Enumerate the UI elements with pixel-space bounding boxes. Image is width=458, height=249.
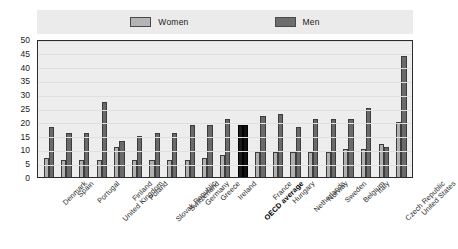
bar-men: [137, 136, 142, 177]
y-axis-tick-label: 25: [21, 104, 30, 114]
y-axis-tick-label: 0: [25, 173, 30, 183]
bar-men: [401, 56, 406, 177]
plot-frame: [37, 40, 413, 178]
x-axis: DenmarkSpainPortugalUnited KingdomFinlan…: [37, 179, 413, 249]
bar-men: [155, 133, 160, 177]
y-axis-tick-label: 30: [21, 90, 30, 100]
gridline: [38, 96, 412, 97]
x-axis-tick-label: Portugal: [95, 179, 121, 205]
bar-men: [66, 133, 71, 177]
y-axis-tick-label: 40: [21, 63, 30, 73]
bar-men: [296, 127, 301, 177]
y-axis-tick-label: 45: [21, 49, 30, 59]
gridline: [38, 68, 412, 69]
y-axis-tick-label: 35: [21, 76, 30, 86]
bar-men: [348, 119, 353, 177]
gridline: [38, 41, 412, 42]
gridline: [38, 151, 412, 152]
y-axis-tick-label: 20: [21, 118, 30, 128]
plot-area: [37, 40, 413, 178]
gridline: [38, 137, 412, 138]
gridline: [38, 82, 412, 83]
legend-label-women: Women: [158, 17, 188, 27]
y-axis-tick-label: 10: [21, 145, 30, 155]
y-axis-tick-label: 5: [25, 159, 30, 169]
bar-men: [366, 108, 371, 177]
y-axis-tick-label: 15: [21, 132, 30, 142]
bar-men: [49, 127, 54, 177]
y-axis-tick-label: 50: [21, 35, 30, 45]
gridline: [38, 110, 412, 111]
bar-men: [260, 116, 265, 177]
bar-men: [102, 102, 107, 177]
gridline: [38, 54, 412, 55]
chart-legend: Women Men: [37, 10, 413, 34]
bar-men: [313, 119, 318, 177]
bar-men: [172, 133, 177, 177]
legend-item-women: Women: [130, 17, 188, 27]
gridline: [38, 123, 412, 124]
bar-men: [225, 119, 230, 177]
legend-swatch-men-icon: [275, 17, 296, 27]
gridline: [38, 165, 412, 166]
y-axis: 05101520253035404550: [0, 40, 34, 178]
bar-men: [119, 141, 124, 177]
legend-item-men: Men: [275, 17, 320, 27]
bar-men: [331, 119, 336, 177]
legend-swatch-women-icon: [130, 17, 151, 27]
legend-label-men: Men: [303, 17, 320, 27]
bar-men: [84, 133, 89, 177]
